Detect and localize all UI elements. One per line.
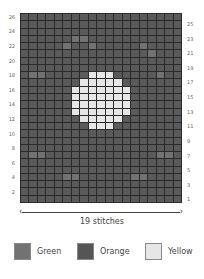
row-number-label: 23 [187, 36, 203, 42]
stitch-cell [140, 188, 147, 194]
row-number-label: 3 [187, 182, 203, 188]
stitch-cell [89, 138, 96, 144]
stitch-cell [131, 21, 138, 27]
stitch-cell [97, 188, 104, 194]
stitch-cell [131, 145, 138, 151]
stitch-cell [165, 138, 172, 144]
stitch-cell [97, 145, 104, 151]
row-number-label: 14 [0, 101, 15, 107]
stitch-cell [97, 72, 104, 78]
stitch-cell [72, 188, 79, 194]
stitch-cell [148, 123, 155, 129]
stitch-cell [97, 109, 104, 115]
stitch-cell [131, 116, 138, 122]
stitch-cell [131, 109, 138, 115]
stitch-cell [21, 65, 28, 71]
stitch-cell [72, 109, 79, 115]
stitch-cell [131, 159, 138, 165]
stitch-cell [80, 138, 87, 144]
stitch-cell [174, 87, 181, 93]
stitch-cell [55, 43, 62, 49]
stitch-cell [140, 65, 147, 71]
stitch-cell [140, 174, 147, 180]
stitch-cell [63, 101, 70, 107]
stitch-cell [114, 65, 121, 71]
stitch-cell [148, 145, 155, 151]
stitch-cell [106, 29, 113, 35]
stitch-cell [21, 36, 28, 42]
stitch-cell [174, 116, 181, 122]
stitch-cell [21, 101, 28, 107]
stitch-cell [80, 58, 87, 64]
stitch-cell [174, 145, 181, 151]
stitch-cell [148, 87, 155, 93]
stitch-cell [165, 159, 172, 165]
stitch-cell [174, 14, 181, 20]
stitch-cell [131, 50, 138, 56]
stitch-cell [106, 36, 113, 42]
stitch-cell [55, 181, 62, 187]
row-number-label: 1 [187, 196, 203, 202]
stitch-cell [165, 72, 172, 78]
stitch-cell [114, 21, 121, 27]
stitch-cell [80, 101, 87, 107]
stitch-cell [114, 29, 121, 35]
stitch-cell [80, 14, 87, 20]
stitch-cell [174, 159, 181, 165]
stitch-cell [97, 167, 104, 173]
stitch-cell [131, 130, 138, 136]
stitch-cell [55, 116, 62, 122]
stitch-cell [157, 109, 164, 115]
stitch-cell [157, 43, 164, 49]
stitch-cell [38, 159, 45, 165]
stitch-cell [106, 14, 113, 20]
stitch-cell [165, 79, 172, 85]
stitch-cell [165, 50, 172, 56]
stitch-cell [21, 94, 28, 100]
stitch-cell [80, 109, 87, 115]
stitch-cell [140, 79, 147, 85]
stitch-cell [97, 14, 104, 20]
stitch-cell [131, 181, 138, 187]
stitch-cell [38, 196, 45, 202]
stitch-cell [114, 14, 121, 20]
stitch-cell [165, 167, 172, 173]
stitch-cell [55, 123, 62, 129]
row-number-label: 26 [0, 14, 15, 20]
stitch-cell [46, 43, 53, 49]
stitch-cell [72, 36, 79, 42]
stitch-cell [165, 152, 172, 158]
stitch-cell [106, 65, 113, 71]
legend-item-orange: Orange [77, 243, 130, 260]
stitch-cell [131, 123, 138, 129]
stitch-cell [174, 123, 181, 129]
stitch-cell [97, 29, 104, 35]
stitch-cell [106, 159, 113, 165]
stitch-cell [21, 181, 28, 187]
stitch-cell [174, 50, 181, 56]
stitch-cell [114, 109, 121, 115]
stitch-cell [106, 101, 113, 107]
stitch-cell [140, 72, 147, 78]
stitch-cell [29, 94, 36, 100]
stitch-cell [148, 29, 155, 35]
stitch-cell [106, 123, 113, 129]
stitch-cell [89, 29, 96, 35]
stitch-cell [55, 152, 62, 158]
stitch-cell [157, 152, 164, 158]
stitch-cell [89, 50, 96, 56]
stitch-cell [123, 159, 130, 165]
stitch-cell [29, 79, 36, 85]
stitch-cell [148, 58, 155, 64]
stitch-cell [29, 72, 36, 78]
stitch-cell [123, 21, 130, 27]
stitch-cell [106, 188, 113, 194]
stitch-cell [148, 36, 155, 42]
stitch-cell [89, 14, 96, 20]
stitch-cell [46, 123, 53, 129]
stitch-cell [123, 188, 130, 194]
stitch-cell [140, 145, 147, 151]
stitch-cell [63, 138, 70, 144]
stitch-cell [72, 65, 79, 71]
stitch-cell [114, 50, 121, 56]
